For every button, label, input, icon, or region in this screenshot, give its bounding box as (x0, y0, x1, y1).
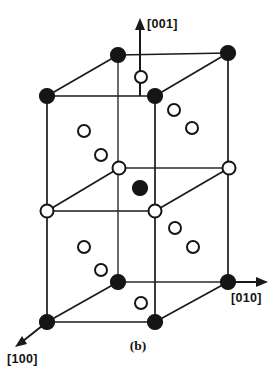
edge-bot-right-diag (155, 282, 228, 322)
atom-upper-left-face-b (95, 149, 107, 161)
axis-100-label: [100] (7, 352, 38, 366)
crystal-structure-figure: [001] [010] [100] (b) (0, 0, 277, 369)
axis-001 (135, 18, 145, 96)
atom-top-face-center (135, 71, 147, 83)
edge-mid-right-diag (155, 168, 229, 211)
up-arrow-icon (135, 18, 145, 30)
atom-top-front-left (40, 89, 55, 104)
atom-top-front-right (148, 89, 163, 104)
panel-label: (b) (130, 338, 147, 353)
atom-upper-right-face-a (168, 104, 180, 116)
atom-bottom-face-center (135, 297, 147, 309)
right-arrow-icon (256, 277, 268, 287)
edge-mid-left-diag (47, 168, 119, 211)
axis-010-label: [010] (231, 291, 262, 305)
edge-top-right-diag (155, 53, 228, 96)
atom-lower-right-face-b (187, 241, 199, 253)
atom-lower-left-face-b (95, 264, 107, 276)
atom-mid-back-right (223, 162, 236, 175)
atom-bot-back-right (221, 275, 236, 290)
atom-mid-back-left (113, 162, 126, 175)
down-left-arrow-icon (15, 336, 27, 347)
filled-atoms-group (40, 46, 236, 330)
atom-mid-front-left (41, 205, 54, 218)
atom-upper-right-face-b (186, 122, 198, 134)
axis-001-label: [001] (147, 17, 178, 31)
atom-top-back-left (111, 48, 126, 63)
atom-upper-left-face-a (78, 125, 90, 137)
atom-mid-front-right (149, 205, 162, 218)
atom-bot-front-right (148, 315, 163, 330)
atom-lower-left-face-a (78, 241, 90, 253)
edge-top-left-diag (47, 55, 118, 96)
edge-bot-left-diag (47, 282, 118, 322)
atom-lower-right-face-a (169, 222, 181, 234)
crystal-structure-svg: [001] [010] [100] (b) (0, 0, 277, 369)
atom-bot-front-left (40, 315, 55, 330)
edge-top-back (118, 53, 228, 55)
atom-top-back-right (221, 46, 236, 61)
atom-bot-back-left (111, 275, 126, 290)
atom-body-center (133, 181, 148, 196)
